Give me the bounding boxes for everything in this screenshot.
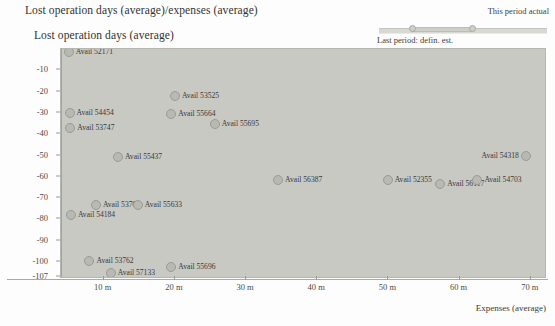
y-axis-tick-label: -10	[37, 64, 54, 74]
y-axis-tick-mark	[56, 197, 60, 198]
y-axis-tick-mark	[56, 154, 60, 155]
data-point-marker[interactable]	[166, 109, 176, 119]
y-axis-tick-mark	[56, 261, 60, 262]
y-axis-tick-label: -107	[32, 271, 54, 281]
data-point-marker[interactable]	[273, 175, 283, 185]
data-point-marker[interactable]	[435, 179, 445, 189]
data-point-label: Avail 54318	[482, 151, 519, 161]
data-point-label: Avail 55664	[178, 109, 215, 119]
y-axis-tick-label: -100	[32, 256, 54, 266]
data-point-marker[interactable]	[91, 200, 101, 210]
data-point-marker[interactable]	[383, 175, 393, 185]
x-axis-tick-label: 10 m	[94, 282, 111, 292]
data-point-label: Avail 52355	[395, 175, 432, 185]
period-range-slider[interactable]: This period actual Last period: defin. e…	[377, 8, 549, 46]
data-point-marker[interactable]	[64, 48, 74, 57]
y-axis-tick-mark	[56, 90, 60, 91]
y-axis-tick-label: -90	[37, 235, 54, 245]
y-axis-tick-label: -80	[37, 213, 54, 223]
x-axis-tick-mark	[103, 276, 104, 280]
x-axis-tick-label: 20 m	[165, 282, 182, 292]
scatter-plot-area[interactable]: Avail 52171Avail 53525Avail 54454Avail 5…	[60, 48, 546, 278]
slider-selected-range[interactable]	[411, 27, 473, 32]
data-point-marker[interactable]	[133, 200, 143, 210]
data-point-label: Avail 53762	[96, 256, 133, 266]
x-axis-tick-label: 30 m	[236, 282, 253, 292]
x-axis-tick-mark	[387, 276, 388, 280]
y-axis-tick-mark	[56, 69, 60, 70]
y-axis-tick-label: -30	[37, 107, 54, 117]
y-axis-tick-mark	[56, 276, 60, 277]
data-point-label: Avail 52171	[76, 48, 113, 57]
y-axis-title: Lost operation days (average)	[34, 29, 174, 41]
data-point-marker[interactable]	[65, 108, 75, 118]
y-axis-tick-mark	[56, 133, 60, 134]
data-point-marker[interactable]	[113, 152, 123, 162]
data-point-label: Avail 54454	[77, 108, 114, 118]
slider-top-label: This period actual	[488, 6, 549, 16]
data-point-marker[interactable]	[106, 268, 116, 278]
y-axis-tick-label: -60	[37, 171, 54, 181]
data-point-marker[interactable]	[170, 91, 180, 101]
data-point-label: Avail 53525	[182, 91, 219, 101]
data-point-marker[interactable]	[521, 151, 531, 161]
x-axis-tick-mark	[530, 276, 531, 280]
y-axis-tick-label: -20	[37, 86, 54, 96]
data-point-label: Avail 54703	[484, 175, 521, 185]
data-point-label: Avail 53747	[77, 123, 114, 133]
data-point-marker[interactable]	[66, 210, 76, 220]
data-point-marker[interactable]	[84, 256, 94, 266]
y-axis-tick-label: -70	[37, 192, 54, 202]
slider-handle-low[interactable]	[409, 25, 416, 32]
data-point-label: Avail 55437	[125, 152, 162, 162]
data-point-marker[interactable]	[65, 123, 75, 133]
slider-handle-high[interactable]	[469, 25, 476, 32]
y-axis-tick-label: -40	[37, 128, 54, 138]
y-axis-tick-mark	[56, 111, 60, 112]
data-point-label: Avail 56387	[285, 175, 322, 185]
x-axis-tick-label: 40 m	[308, 282, 325, 292]
x-axis-line	[7, 279, 548, 280]
data-point-marker[interactable]	[166, 262, 176, 272]
x-axis-tick-label: 70 m	[521, 282, 538, 292]
y-axis-tick-mark	[56, 239, 60, 240]
data-point-label: Avail 54184	[78, 210, 115, 220]
y-axis-line	[61, 49, 62, 277]
data-point-label: Avail 55696	[178, 262, 215, 272]
x-axis-tick-label: 60 m	[450, 282, 467, 292]
data-point-label: Avail 55633	[145, 200, 182, 210]
data-point-label: Avail 55695	[222, 119, 259, 129]
chart-screen: Lost operation days (average)/expenses (…	[0, 0, 555, 326]
slider-bottom-label: Last period: defin. est.	[377, 35, 453, 45]
page-title: Lost operation days (average)/expenses (…	[25, 4, 258, 16]
x-axis-tick-label: 50 m	[379, 282, 396, 292]
x-axis-tick-mark	[174, 276, 175, 280]
x-axis-tick-mark	[459, 276, 460, 280]
data-point-marker[interactable]	[210, 119, 220, 129]
x-axis-tick-mark	[316, 276, 317, 280]
x-axis-title: Expenses (average)	[476, 303, 546, 313]
y-axis-tick-mark	[56, 218, 60, 219]
data-point-label: Avail 57133	[118, 268, 155, 278]
x-axis-tick-mark	[245, 276, 246, 280]
y-axis-tick-label: -50	[37, 150, 54, 160]
y-axis-tick-mark	[56, 175, 60, 176]
